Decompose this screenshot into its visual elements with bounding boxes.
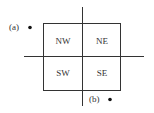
point-a-dot	[28, 26, 32, 30]
point-b-dot	[108, 98, 112, 102]
quadrant-diagram: NW NE SW SE (a) (b)	[0, 0, 154, 113]
quadrant-label-ne: NE	[96, 36, 108, 46]
point-label-b: (b)	[89, 94, 100, 104]
quadrant-label-se: SE	[97, 68, 108, 78]
point-label-a: (a)	[9, 22, 19, 32]
quadrant-label-nw: NW	[56, 36, 71, 46]
quadrant-label-sw: SW	[56, 68, 70, 78]
